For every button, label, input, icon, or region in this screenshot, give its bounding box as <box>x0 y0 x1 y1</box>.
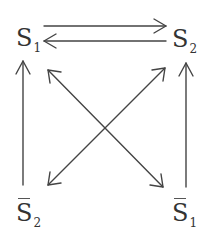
node-s1-subscript: 1 <box>33 41 41 55</box>
node-not-s2-subscript: 2 <box>33 216 41 230</box>
node-not-s1: S1 <box>172 201 197 225</box>
node-not-s2-symbol-wrap: S <box>16 201 32 225</box>
arrow-s1-to-s2 <box>44 19 166 33</box>
arrow-s2-to-s1 <box>44 34 166 48</box>
node-not-s2-symbol: S <box>16 199 32 227</box>
node-s2-symbol: S <box>172 27 188 51</box>
node-s1: S1 <box>16 26 41 50</box>
arrow-nots2-to-s1 <box>16 61 30 185</box>
state-diagram: S1 S2 S2 S1 <box>0 0 206 246</box>
node-not-s1-symbol: S <box>172 199 188 227</box>
node-not-s1-symbol-wrap: S <box>172 201 188 225</box>
node-not-s1-subscript: 1 <box>189 216 197 230</box>
arrow-s2-nots2-bidirectional <box>48 68 165 185</box>
node-s1-symbol: S <box>16 26 32 50</box>
node-s2-subscript: 2 <box>189 42 197 56</box>
overline <box>174 198 186 199</box>
overline <box>18 198 30 199</box>
node-s2: S2 <box>172 27 197 51</box>
node-not-s2: S2 <box>16 201 41 225</box>
arrow-nots1-to-s2 <box>179 63 193 187</box>
